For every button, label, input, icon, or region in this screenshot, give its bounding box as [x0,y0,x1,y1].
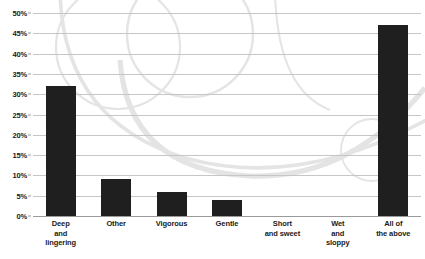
bar[interactable] [101,179,131,216]
y-tick-label: 20% [13,130,27,139]
bar-slot [144,13,199,216]
bar-slot [199,13,254,216]
x-tick-label-wet-and-sloppy: Wetandsloppy [310,218,365,259]
bar-chart: 50% 45% 40% 35% 30% 25% 20% 15% 10% 5% 0… [0,0,425,259]
y-tick-label: 15% [13,151,27,160]
y-tick-mark [28,33,31,34]
y-tick-mark [28,53,31,54]
y-tick-mark [28,175,31,176]
y-tick-label: 45% [13,29,27,38]
bar-slot [33,13,88,216]
bar[interactable] [378,25,408,216]
y-tick-mark [28,94,31,95]
y-tick-label: 50% [13,9,27,18]
y-tick-mark [28,114,31,115]
y-tick-label: 0% [17,212,27,221]
y-tick-mark [28,216,31,217]
axis-baseline [33,216,421,217]
bar-slot [366,13,421,216]
y-tick-mark [28,134,31,135]
x-axis: Deepandlingering Other Vigorous Gentle S… [33,218,421,259]
y-tick-mark [28,73,31,74]
y-tick-label: 35% [13,69,27,78]
bar-slot [88,13,143,216]
bars-container [33,13,421,216]
y-tick-label: 5% [17,191,27,200]
y-tick-label: 10% [13,171,27,180]
y-tick-mark [28,195,31,196]
x-tick-label-short-and-sweet: Shortand sweet [255,218,310,259]
bar[interactable] [212,200,242,216]
y-tick-mark [28,13,31,14]
y-axis: 50% 45% 40% 35% 30% 25% 20% 15% 10% 5% 0… [0,13,31,216]
x-tick-label-vigorous: Vigorous [144,218,199,259]
y-tick-label: 40% [13,49,27,58]
bar[interactable] [46,86,76,216]
bar-slot [255,13,310,216]
bar[interactable] [157,192,187,216]
x-tick-label-gentle: Gentle [199,218,254,259]
x-tick-label-other: Other [88,218,143,259]
plot-area [33,13,421,216]
y-tick-mark [28,155,31,156]
y-tick-label: 30% [13,90,27,99]
bar-slot [310,13,365,216]
x-tick-label-all-of-the-above: All ofthe above [366,218,421,259]
x-tick-label-deep-and-lingering: Deepandlingering [33,218,88,259]
y-tick-label: 25% [13,110,27,119]
